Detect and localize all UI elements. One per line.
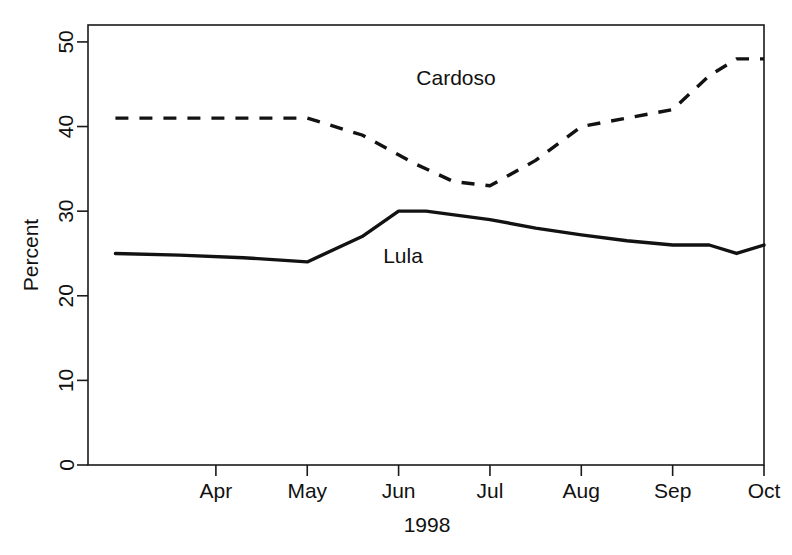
y-tick-label: 0 bbox=[55, 459, 78, 471]
line-chart-svg: 01020304050 AprMayJunJulAugSepOct Percen… bbox=[0, 0, 792, 555]
y-axis-title: Percent bbox=[19, 219, 42, 292]
series-line-lula bbox=[115, 211, 764, 262]
series-annotations: CardosoLula bbox=[383, 66, 496, 267]
x-tick-label: Sep bbox=[654, 479, 691, 502]
y-tick-label: 50 bbox=[55, 30, 78, 53]
y-axis: 01020304050 bbox=[55, 30, 89, 471]
y-tick-label: 10 bbox=[55, 369, 78, 392]
y-tick-label: 20 bbox=[55, 284, 78, 307]
x-tick-label: Aug bbox=[563, 479, 600, 502]
y-tick-label: 40 bbox=[55, 115, 78, 138]
series-label-cardoso: Cardoso bbox=[416, 66, 495, 89]
x-tick-label: Jul bbox=[477, 479, 504, 502]
x-axis-title: 1998 bbox=[404, 513, 451, 536]
series-label-lula: Lula bbox=[383, 244, 423, 267]
x-tick-label: May bbox=[287, 479, 327, 502]
x-tick-label: Jun bbox=[382, 479, 416, 502]
x-tick-label: Oct bbox=[748, 479, 781, 502]
y-tick-label: 30 bbox=[55, 199, 78, 222]
data-series-group bbox=[115, 59, 764, 262]
x-tick-label: Apr bbox=[200, 479, 233, 502]
x-axis: AprMayJunJulAugSepOct bbox=[200, 465, 781, 502]
chart-figure: 01020304050 AprMayJunJulAugSepOct Percen… bbox=[0, 0, 792, 555]
